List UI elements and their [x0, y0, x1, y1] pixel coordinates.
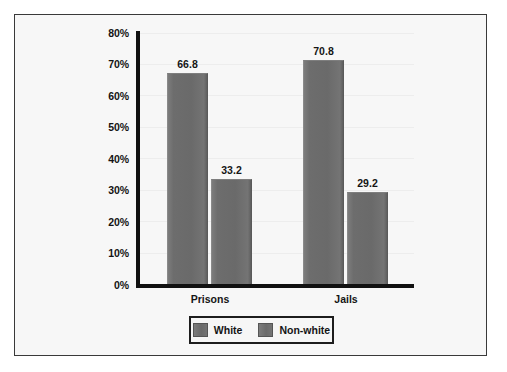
y-tick-50: 50% [15, 121, 129, 133]
legend-item-white[interactable]: White [193, 323, 243, 337]
y-tick-label: 60% [15, 90, 129, 102]
x-category-label-jails: Jails [306, 293, 386, 305]
legend-swatch-icon [193, 323, 208, 337]
y-tick-label: 40% [15, 153, 129, 165]
y-tick-30: 30% [15, 184, 129, 196]
y-tick-label: 30% [15, 184, 129, 196]
legend-item-nonwhite[interactable]: Non-white [258, 323, 330, 337]
chart-legend: White Non-white [189, 316, 334, 344]
y-axis-line [136, 31, 140, 288]
y-tick-20: 20% [15, 216, 129, 228]
bar-value-prisons-white: 66.8 [158, 58, 217, 70]
y-tick-60: 60% [15, 90, 129, 102]
y-tick-label: 50% [15, 121, 129, 133]
x-axis-line [136, 284, 414, 288]
y-tick-40: 40% [15, 153, 129, 165]
legend-label: Non-white [279, 324, 330, 336]
gridline [140, 33, 414, 34]
plot-area: 80% 70% 60% 50% 40% 30% 20% 10% 0% 66.8 [15, 15, 486, 355]
bar-prisons-nonwhite[interactable] [211, 179, 252, 284]
chart-figure: 80% 70% 60% 50% 40% 30% 20% 10% 0% 66.8 [14, 14, 487, 356]
y-tick-70: 70% [15, 58, 129, 70]
y-tick-label: 0% [15, 279, 129, 291]
y-tick-label: 20% [15, 216, 129, 228]
x-category-label-prisons: Prisons [170, 293, 250, 305]
bar-jails-white[interactable] [303, 60, 344, 284]
bar-value-jails-nonwhite: 29.2 [338, 177, 397, 189]
y-tick-label: 10% [15, 247, 129, 259]
bar-jails-nonwhite[interactable] [347, 192, 388, 284]
legend-swatch-icon [258, 323, 273, 337]
legend-label: White [214, 324, 243, 336]
bar-value-jails-white: 70.8 [294, 45, 353, 57]
y-tick-10: 10% [15, 247, 129, 259]
y-tick-80: 80% [15, 27, 129, 39]
y-tick-label: 80% [15, 27, 129, 39]
bar-prisons-white[interactable] [167, 73, 208, 284]
y-tick-0: 0% [15, 279, 129, 291]
bar-value-prisons-nonwhite: 33.2 [202, 164, 261, 176]
y-tick-label: 70% [15, 58, 129, 70]
